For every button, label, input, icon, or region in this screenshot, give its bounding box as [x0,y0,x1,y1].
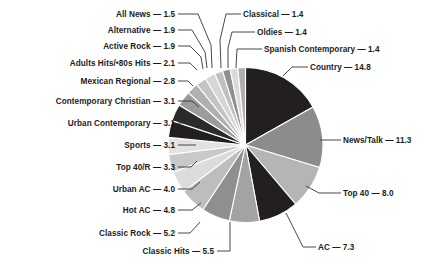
slice-label-mexican-regional: Mexican Regional — 2.8 [81,77,176,86]
slice-label-country: Country — 14.8 [310,63,371,72]
slice-label-spanish-contemporary: Spanish Contemporary — 1.4 [264,45,380,54]
slice-label-ac: AC — 7.3 [318,243,355,252]
slice-label-sports: Sports — 3.1 [124,141,175,150]
leader-adults-hits [178,63,197,70]
slice-label-top-40-r: Top 40/R — 3.3 [116,163,175,172]
leader-mexican-regional [178,81,193,86]
slice-label-all-news: All News — 1.5 [116,10,175,19]
leader-ac [286,213,316,247]
slice-label-active-rock: Active Rock — 1.9 [103,42,175,51]
slice-label-oldies: Oldies — 1.4 [257,28,307,37]
slice-label-urban-contemporary: Urban Contemporary — 3.1 [68,119,176,128]
slice-label-top-40: Top 40 — 8.0 [343,189,394,198]
slice-label-adults-hits-80s-hits: Adults Hits/•80s Hits — 2.1 [70,59,176,68]
leader-classic-hits [217,222,230,251]
slice-label-news-talk: News/Talk — 11.3 [343,136,412,145]
slice-label-classical: Classical — 1.4 [243,10,304,19]
slice-label-hot-ac: Hot AC — 4.8 [123,206,176,215]
leader-country [283,67,308,76]
slice-label-classic-hits: Classic Hits — 5.5 [143,247,215,256]
slice-label-contemporary-christian: Contemporary Christian — 3.1 [56,97,176,106]
leader-spanish-contemporary [236,49,262,68]
leader-all-news [178,14,212,68]
leader-oldies [228,32,255,68]
leader-active-rock [178,46,203,69]
slice-label-classic-rock: Classic Rock — 5.2 [99,229,175,238]
pie-chart-figure: All News — 1.5Alternative — 1.9Active Ro… [0,0,439,265]
leader-classical [220,14,241,68]
pie-chart-canvas: All News — 1.5Alternative — 1.9Active Ro… [0,0,439,265]
slice-label-urban-ac: Urban AC — 4.0 [113,185,176,194]
leader-classic-rock [178,222,200,233]
slice-label-alternative: Alternative — 1.9 [108,26,176,35]
